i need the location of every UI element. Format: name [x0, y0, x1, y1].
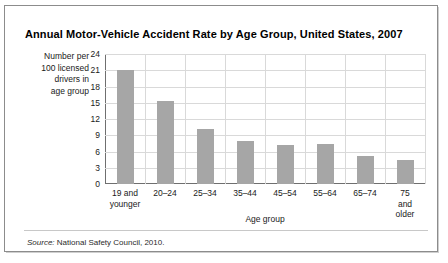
y-tick-label: 9	[95, 130, 100, 140]
bar	[357, 156, 374, 184]
gridline-vertical	[385, 54, 386, 184]
y-tick-label: 6	[95, 147, 100, 157]
bar	[197, 129, 214, 184]
y-axis-title-line-2: 100 licensed	[17, 63, 89, 75]
x-tick-label: 55–64	[313, 188, 337, 199]
divider	[24, 230, 428, 231]
gridline-vertical	[265, 54, 266, 184]
x-tick-label: 19 and younger	[110, 188, 141, 209]
bar	[237, 141, 254, 184]
y-tick-label: 15	[91, 98, 100, 108]
x-tick-label: 20–24	[153, 188, 177, 199]
y-axis-title-line-3: drivers in	[17, 74, 89, 86]
y-axis-title-line-4: age group	[17, 86, 89, 98]
page-title: Annual Motor-Vehicle Accident Rate by Ag…	[25, 28, 403, 40]
y-axis-title-line-1: Number per	[17, 51, 89, 63]
bar	[157, 101, 174, 184]
x-tick-label: 75 and older	[395, 188, 415, 220]
y-tick-label: 0	[95, 179, 100, 189]
source-text: National Safety Council, 2010.	[55, 238, 165, 247]
gridline-vertical	[145, 54, 146, 184]
bar	[397, 160, 414, 184]
y-tick-label: 18	[91, 82, 100, 92]
y-tick-label: 21	[91, 65, 100, 75]
figure-frame: Annual Motor-Vehicle Accident Rate by Ag…	[4, 5, 438, 252]
bar	[117, 70, 134, 184]
gridline-vertical	[225, 54, 226, 184]
chart-plot-area: 03691215182124 19 and younger20–2425–343…	[105, 54, 425, 184]
y-tick-label: 3	[95, 163, 100, 173]
x-tick-label: 35–44	[233, 188, 257, 199]
gridline-vertical	[425, 54, 426, 184]
bar	[317, 144, 334, 184]
x-tick-label: 45–54	[273, 188, 297, 199]
bar	[277, 145, 294, 184]
source-note: Source: National Safety Council, 2010.	[27, 238, 164, 247]
y-tick-label: 24	[91, 49, 100, 59]
gridline-vertical	[185, 54, 186, 184]
gridline-vertical	[305, 54, 306, 184]
x-tick-label: 65–74	[353, 188, 377, 199]
y-axis-title: Number per 100 licensed drivers in age g…	[17, 51, 89, 97]
y-tick-label: 12	[91, 114, 100, 124]
x-tick-label: 25–34	[193, 188, 217, 199]
x-axis-title: Age group	[245, 214, 284, 224]
source-label: Source:	[27, 238, 55, 247]
gridline-vertical	[345, 54, 346, 184]
